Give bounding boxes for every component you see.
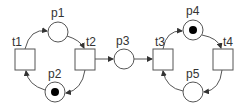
label-t1: t1	[12, 35, 22, 49]
arc-p4-t4	[202, 35, 221, 48]
label-t4: t4	[223, 35, 233, 49]
label-p5: p5	[186, 67, 200, 81]
place-p1	[48, 22, 68, 42]
arc-p1-t2	[67, 36, 84, 48]
label-p4: p4	[186, 4, 200, 18]
label-p3: p3	[116, 34, 130, 48]
place-p5	[183, 82, 203, 102]
label-t2: t2	[86, 35, 96, 49]
transition-t1	[15, 49, 35, 70]
label-t3: t3	[155, 35, 165, 49]
label-p2: p2	[48, 67, 62, 81]
arc-p5-t3	[163, 71, 183, 91]
arc-t4-p5	[204, 70, 222, 92]
arc-t1-p1	[25, 31, 47, 49]
token-p2	[51, 88, 59, 96]
arc-t2-p2	[66, 70, 85, 93]
transition-t4	[213, 49, 233, 70]
token-p4	[189, 26, 197, 34]
arc-p2-t1	[26, 71, 45, 90]
transition-t2	[75, 49, 95, 70]
transition-t3	[153, 49, 173, 70]
petri-net-diagram: p1 p2 p3 p4 p5 t1 t2 t3 t4	[0, 0, 245, 106]
label-p1: p1	[51, 6, 65, 20]
arc-t3-p4	[163, 31, 182, 49]
place-p3	[114, 49, 134, 69]
